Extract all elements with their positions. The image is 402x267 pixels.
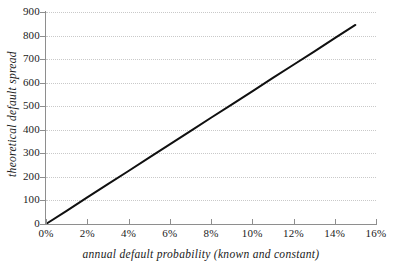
y-tick-700 bbox=[40, 59, 46, 60]
y-tick-100 bbox=[40, 200, 46, 201]
series-line-theoretical-default-spread bbox=[46, 12, 376, 224]
x-tick-16% bbox=[376, 219, 377, 225]
y-tick-label-900: 900 bbox=[6, 6, 40, 17]
x-tick-label-12%: 12% bbox=[274, 228, 314, 239]
x-tick-label-4%: 4% bbox=[109, 228, 149, 239]
x-axis-title: annual default probability (known and co… bbox=[0, 248, 402, 260]
x-tick-4% bbox=[129, 219, 130, 225]
x-tick-8% bbox=[211, 219, 212, 225]
line-chart: 0100200300400500600700800900 0%2%4%6%8%1… bbox=[0, 0, 402, 267]
x-tick-label-8%: 8% bbox=[191, 228, 231, 239]
x-tick-14% bbox=[335, 219, 336, 225]
y-axis-title: theoretical default spread bbox=[6, 34, 18, 194]
x-tick-label-2%: 2% bbox=[67, 228, 107, 239]
y-tick-label-100: 100 bbox=[6, 194, 40, 205]
series-polyline bbox=[46, 25, 355, 224]
x-tick-label-6%: 6% bbox=[150, 228, 190, 239]
plot-area bbox=[46, 12, 376, 224]
y-tick-400 bbox=[40, 130, 46, 131]
x-tick-label-10%: 10% bbox=[232, 228, 272, 239]
x-tick-label-14%: 14% bbox=[315, 228, 355, 239]
x-tick-label-0%: 0% bbox=[26, 228, 66, 239]
y-tick-500 bbox=[40, 106, 46, 107]
y-tick-800 bbox=[40, 36, 46, 37]
y-axis-line bbox=[45, 11, 46, 225]
x-tick-2% bbox=[87, 219, 88, 225]
x-tick-12% bbox=[294, 219, 295, 225]
y-tick-900 bbox=[40, 12, 46, 13]
x-tick-label-16%: 16% bbox=[356, 228, 396, 239]
x-tick-0% bbox=[46, 219, 47, 225]
y-tick-300 bbox=[40, 153, 46, 154]
y-tick-200 bbox=[40, 177, 46, 178]
x-tick-10% bbox=[252, 219, 253, 225]
y-tick-600 bbox=[40, 83, 46, 84]
x-tick-6% bbox=[170, 219, 171, 225]
